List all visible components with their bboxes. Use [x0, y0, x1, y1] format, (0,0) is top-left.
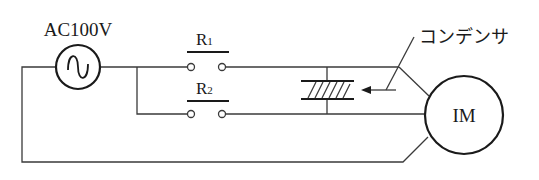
motor-lead-1: [399, 67, 429, 96]
leader-line: [386, 37, 414, 90]
sine-wave-icon: [68, 56, 88, 78]
r2-label: R2: [196, 79, 213, 98]
capacitor-leader: [361, 37, 414, 94]
capacitor: [301, 81, 354, 99]
relay-contact-r2: [187, 101, 229, 118]
motor-label: IM: [452, 105, 475, 126]
source-label: AC100V: [44, 19, 113, 40]
circuit-svg: IM AC100V R1 R2 コンデンサ: [0, 0, 539, 180]
ac-source: [56, 45, 100, 89]
circuit-diagram: IM AC100V R1 R2 コンデンサ: [0, 0, 539, 180]
induction-motor: IM: [425, 76, 503, 154]
arrow-left-icon: [361, 86, 371, 94]
cap-hatch: [308, 82, 350, 98]
branch-wire: [137, 67, 187, 114]
r1-terminal-left: [188, 64, 195, 71]
relay-contact-r1: [187, 52, 229, 71]
r1-terminal-right: [219, 64, 226, 71]
r2-terminal-left: [188, 111, 195, 118]
capacitor-label: コンデンサ: [419, 26, 509, 47]
r1-label: R1: [196, 30, 213, 49]
r2-terminal-right: [219, 111, 226, 118]
